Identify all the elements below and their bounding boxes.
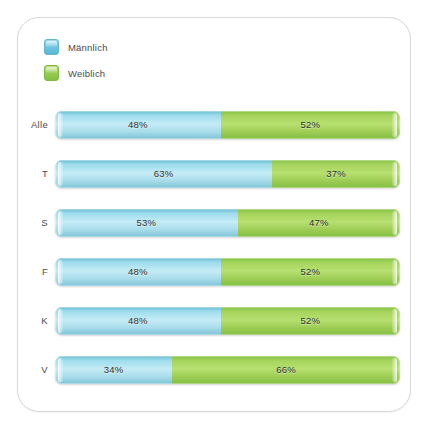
- stacked-bar: 48% 52%: [55, 307, 400, 335]
- bar-value-maennlich: 34%: [55, 356, 172, 384]
- category-label: F: [0, 257, 48, 287]
- chart-plot-area: Alle 48% 52% T 63% 37%: [0, 0, 430, 428]
- category-label: K: [0, 306, 48, 336]
- category-label: T: [0, 159, 48, 189]
- bar-row: F 48% 52%: [0, 257, 430, 287]
- bar-row: S 53% 47%: [0, 208, 430, 238]
- bar-value-maennlich: 48%: [55, 307, 221, 335]
- bar-value-weiblich: 66%: [172, 356, 400, 384]
- stacked-bar: 48% 52%: [55, 111, 400, 139]
- bar-value-weiblich: 52%: [221, 258, 400, 286]
- bar-row: Alle 48% 52%: [0, 110, 430, 140]
- bar-value-maennlich: 48%: [55, 111, 221, 139]
- stacked-bar: 34% 66%: [55, 356, 400, 384]
- bar-row: V 34% 66%: [0, 355, 430, 385]
- bar-row: K 48% 52%: [0, 306, 430, 336]
- bar-row: T 63% 37%: [0, 159, 430, 189]
- category-label: Alle: [0, 110, 48, 140]
- category-label: V: [0, 355, 48, 385]
- category-label: S: [0, 208, 48, 238]
- stacked-bar: 48% 52%: [55, 258, 400, 286]
- bar-value-weiblich: 47%: [238, 209, 400, 237]
- bar-value-maennlich: 48%: [55, 258, 221, 286]
- bar-value-weiblich: 37%: [272, 160, 400, 188]
- stacked-bar: 53% 47%: [55, 209, 400, 237]
- chart-screenshot: Männlich Weiblich Alle 48% 52% T: [0, 0, 430, 428]
- stacked-bar: 63% 37%: [55, 160, 400, 188]
- bar-value-weiblich: 52%: [221, 307, 400, 335]
- bar-value-weiblich: 52%: [221, 111, 400, 139]
- bar-value-maennlich: 63%: [55, 160, 272, 188]
- bar-value-maennlich: 53%: [55, 209, 238, 237]
